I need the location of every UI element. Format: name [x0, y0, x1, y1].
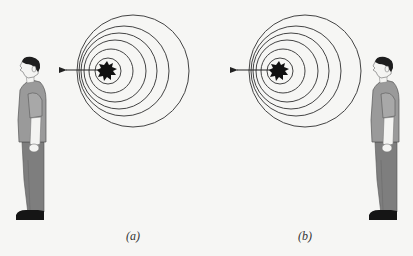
panel-label-b: (b) [298, 229, 312, 244]
sound-source-starburst-icon [97, 61, 117, 81]
sound-source-starburst-icon [269, 61, 289, 81]
panel-label-a: (a) [126, 229, 140, 244]
panel-a [16, 15, 189, 220]
wavefront-circle [251, 26, 341, 116]
panel-b [237, 15, 399, 220]
wavefronts-a [77, 15, 189, 127]
observer-person-a [16, 57, 46, 220]
doppler-figure [0, 0, 413, 256]
wavefront-circle [79, 26, 169, 116]
wavefronts-b [249, 15, 361, 127]
observer-person-b [369, 57, 399, 220]
